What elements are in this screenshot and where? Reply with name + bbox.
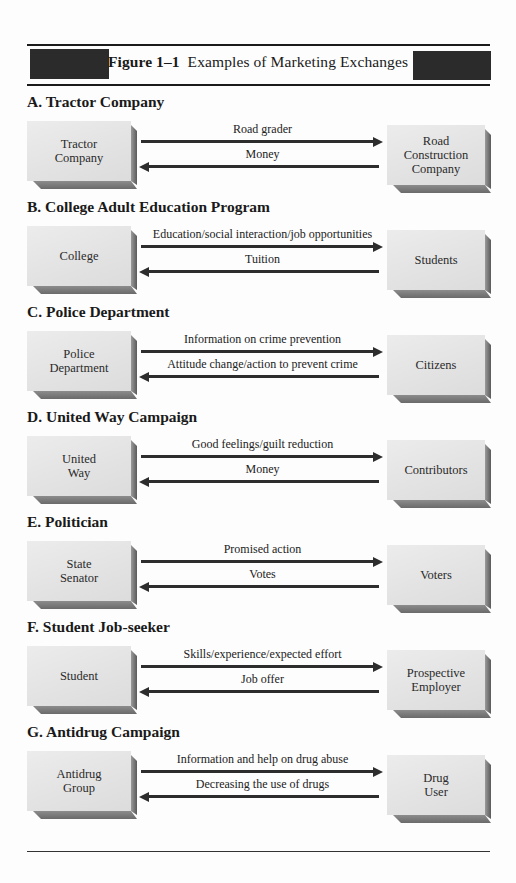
party-box-right-label: DrugUser bbox=[423, 771, 449, 799]
section-title: A. Tractor Company bbox=[27, 93, 164, 111]
box-side-shade bbox=[131, 650, 137, 710]
party-box-left-label: AntidrugGroup bbox=[56, 767, 101, 795]
arrow-right-icon bbox=[141, 350, 375, 353]
section-title: E. Politician bbox=[27, 513, 108, 531]
arrow-left-icon bbox=[148, 375, 379, 378]
box-bottom-shade bbox=[393, 500, 491, 508]
box-side-shade bbox=[131, 755, 137, 815]
figure-label: Figure 1–1 bbox=[108, 53, 180, 70]
exchange-section: E. PoliticianStateSenatorVotersPromised … bbox=[0, 513, 516, 618]
return-exchange-label: Votes bbox=[140, 567, 385, 582]
return-exchange-label: Attitude change/action to prevent crime bbox=[140, 357, 385, 372]
section-title: F. Student Job-seeker bbox=[27, 618, 170, 636]
party-box-right: ProspectiveEmployer bbox=[387, 650, 485, 710]
exchange-section: F. Student Job-seekerStudentProspectiveE… bbox=[0, 618, 516, 723]
header-block-right bbox=[413, 51, 491, 80]
box-bottom-shade bbox=[393, 710, 491, 718]
party-box-left-label: StateSenator bbox=[60, 557, 98, 585]
box-bottom-shade bbox=[33, 811, 137, 819]
party-box-left: PoliceDepartment bbox=[27, 331, 131, 391]
return-exchange-label: Job offer bbox=[140, 672, 385, 687]
exchange-section: G. Antidrug CampaignAntidrugGroupDrugUse… bbox=[0, 723, 516, 828]
party-box-right: DrugUser bbox=[387, 755, 485, 815]
box-side-shade bbox=[131, 125, 137, 185]
box-side-shade bbox=[485, 234, 491, 294]
forward-exchange-label: Good feelings/guilt reduction bbox=[140, 437, 385, 452]
section-title: B. College Adult Education Program bbox=[27, 198, 270, 216]
box-side-shade bbox=[131, 440, 137, 500]
box-bottom-shade bbox=[393, 605, 491, 613]
arrow-right-icon bbox=[141, 770, 375, 773]
box-side-shade bbox=[131, 230, 137, 290]
party-box-left-label: Student bbox=[60, 669, 98, 683]
arrow-left-icon bbox=[148, 690, 379, 693]
box-bottom-shade bbox=[33, 181, 137, 189]
box-bottom-shade bbox=[393, 290, 491, 298]
exchange-section: A. Tractor CompanyTractorCompanyRoadCons… bbox=[0, 93, 516, 198]
return-exchange-label: Decreasing the use of drugs bbox=[140, 777, 385, 792]
exchange-section: B. College Adult Education ProgramColleg… bbox=[0, 198, 516, 303]
exchange-section: C. Police DepartmentPoliceDepartmentCiti… bbox=[0, 303, 516, 408]
arrow-right-icon bbox=[141, 140, 375, 143]
party-box-right-label: Students bbox=[414, 253, 457, 267]
arrow-left-icon bbox=[148, 480, 379, 483]
arrow-right-icon bbox=[141, 665, 375, 668]
box-bottom-shade bbox=[33, 706, 137, 714]
box-bottom-shade bbox=[33, 391, 137, 399]
box-side-shade bbox=[485, 549, 491, 609]
box-side-shade bbox=[485, 339, 491, 399]
party-box-left-label: TractorCompany bbox=[55, 137, 104, 165]
box-side-shade bbox=[131, 335, 137, 395]
arrow-left-icon bbox=[148, 795, 379, 798]
forward-exchange-label: Skills/experience/expected effort bbox=[140, 647, 385, 662]
party-box-right: Voters bbox=[387, 545, 485, 605]
party-box-right: Citizens bbox=[387, 335, 485, 395]
box-side-shade bbox=[131, 545, 137, 605]
party-box-left: College bbox=[27, 226, 131, 286]
box-side-shade bbox=[485, 444, 491, 504]
party-box-left-label: UnitedWay bbox=[62, 452, 96, 480]
party-box-left: Student bbox=[27, 646, 131, 706]
section-title: G. Antidrug Campaign bbox=[27, 723, 180, 741]
box-side-shade bbox=[485, 654, 491, 714]
box-bottom-shade bbox=[393, 815, 491, 823]
party-box-right-label: Contributors bbox=[404, 463, 467, 477]
section-title: D. United Way Campaign bbox=[27, 408, 197, 426]
figure-caption: Examples of Marketing Exchanges bbox=[188, 53, 408, 70]
section-title: C. Police Department bbox=[27, 303, 169, 321]
party-box-right: Contributors bbox=[387, 440, 485, 500]
arrow-left-icon bbox=[148, 165, 379, 168]
return-exchange-label: Tuition bbox=[140, 252, 385, 267]
exchange-section: D. United Way CampaignUnitedWayContribut… bbox=[0, 408, 516, 513]
arrow-right-icon bbox=[141, 455, 375, 458]
party-box-left: StateSenator bbox=[27, 541, 131, 601]
box-side-shade bbox=[485, 759, 491, 819]
party-box-left: AntidrugGroup bbox=[27, 751, 131, 811]
party-box-right: Students bbox=[387, 230, 485, 290]
box-bottom-shade bbox=[33, 601, 137, 609]
forward-exchange-label: Road grader bbox=[140, 122, 385, 137]
top-rule bbox=[27, 44, 490, 46]
arrow-right-icon bbox=[141, 560, 375, 563]
party-box-right: RoadConstructionCompany bbox=[387, 125, 485, 185]
arrow-left-icon bbox=[148, 585, 379, 588]
box-bottom-shade bbox=[393, 185, 491, 193]
party-box-left-label: PoliceDepartment bbox=[49, 347, 108, 375]
bottom-rule bbox=[27, 851, 490, 852]
party-box-right-label: ProspectiveEmployer bbox=[407, 666, 465, 694]
return-exchange-label: Money bbox=[140, 462, 385, 477]
forward-exchange-label: Education/social interaction/job opportu… bbox=[140, 227, 385, 242]
box-side-shade bbox=[485, 129, 491, 189]
party-box-left: TractorCompany bbox=[27, 121, 131, 181]
box-bottom-shade bbox=[393, 395, 491, 403]
forward-exchange-label: Promised action bbox=[140, 542, 385, 557]
box-bottom-shade bbox=[33, 496, 137, 504]
party-box-left: UnitedWay bbox=[27, 436, 131, 496]
forward-exchange-label: Information on crime prevention bbox=[140, 332, 385, 347]
party-box-left-label: College bbox=[60, 249, 99, 263]
party-box-right-label: Citizens bbox=[416, 358, 457, 372]
forward-exchange-label: Information and help on drug abuse bbox=[140, 752, 385, 767]
party-box-right-label: RoadConstructionCompany bbox=[404, 134, 469, 176]
return-exchange-label: Money bbox=[140, 147, 385, 162]
party-box-right-label: Voters bbox=[420, 568, 452, 582]
